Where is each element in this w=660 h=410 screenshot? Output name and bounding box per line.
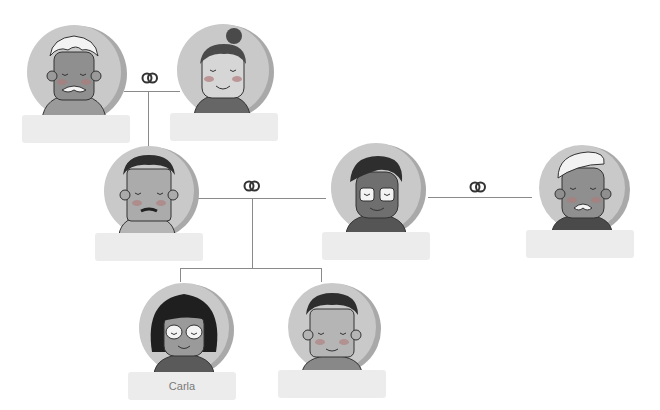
- child-drop-son: [321, 268, 322, 282]
- person-son[interactable]: [278, 281, 386, 401]
- person-grandma[interactable]: [170, 22, 278, 142]
- avatar-son: [280, 281, 384, 373]
- descent-line-parents: [252, 198, 253, 268]
- avatar-grandpa: [24, 24, 128, 120]
- avatar-grandma: [172, 22, 276, 116]
- rings-icon: [141, 72, 159, 84]
- person-daughter[interactable]: Carla: [128, 280, 236, 402]
- marriage-line-parents: [198, 198, 326, 199]
- name-label-stepfather: [526, 230, 634, 258]
- rings-icon: [469, 181, 487, 193]
- name-label-father: [95, 233, 203, 261]
- children-line: [180, 268, 322, 269]
- person-grandpa[interactable]: [22, 24, 130, 144]
- person-mother[interactable]: [322, 142, 430, 262]
- descent-line-grandparents: [148, 91, 149, 151]
- family-tree-diagram: Carla: [0, 0, 660, 410]
- marriage-line-second: [428, 197, 532, 198]
- name-label-son: [278, 370, 386, 398]
- name-label-grandma: [170, 113, 278, 141]
- avatar-father: [97, 143, 201, 235]
- avatar-stepfather: [528, 142, 632, 232]
- person-stepfather[interactable]: [526, 142, 634, 262]
- avatar-daughter: [130, 280, 234, 374]
- rings-icon: [243, 180, 261, 192]
- name-label-daughter: Carla: [128, 372, 236, 400]
- name-label-grandpa: [22, 115, 130, 143]
- avatar-mother: [324, 142, 428, 234]
- name-label-mother: [322, 232, 430, 260]
- person-father[interactable]: [95, 143, 203, 263]
